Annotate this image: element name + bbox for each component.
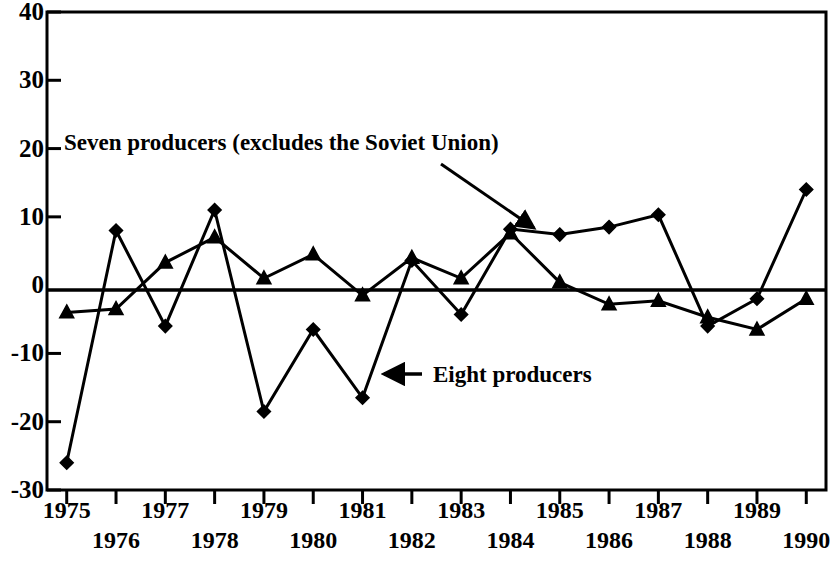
data-point-marker [405, 250, 419, 263]
x-tick-label: 1982 [372, 528, 452, 552]
series-line [67, 190, 807, 463]
y-tick-label: -20 [0, 409, 44, 434]
x-tick-label: 1976 [76, 528, 156, 552]
data-point-marker [553, 228, 566, 241]
y-tick-label: 30 [0, 67, 44, 92]
data-point-marker [257, 405, 270, 418]
data-point-marker [208, 204, 221, 217]
x-tick-label: 1983 [421, 498, 501, 522]
series-line [67, 233, 807, 329]
data-series-layer [60, 183, 814, 469]
x-tick-label: 1985 [520, 498, 600, 522]
x-tick-label: 1984 [470, 528, 550, 552]
data-point-marker [60, 456, 73, 469]
data-point-marker [652, 208, 665, 221]
y-tick-label: -10 [0, 340, 44, 365]
plot-frame [47, 12, 826, 490]
x-tick-label: 1990 [766, 528, 834, 552]
x-tick-label: 1978 [175, 528, 255, 552]
data-point-marker [800, 183, 813, 196]
y-tick-label: 20 [0, 136, 44, 161]
data-point-marker [750, 292, 763, 305]
data-point-marker [110, 224, 123, 237]
x-tick-label: 1988 [668, 528, 748, 552]
data-point-marker [603, 221, 616, 234]
x-tick-label: 1987 [618, 498, 698, 522]
y-tick-label: 10 [0, 204, 44, 229]
data-point-marker [159, 320, 172, 333]
x-tick-label: 1981 [323, 498, 403, 522]
x-tick-label: 1980 [273, 528, 353, 552]
seven-producers-arrow [441, 164, 534, 228]
x-tick-label: 1986 [569, 528, 649, 552]
x-tick-label: 1975 [27, 498, 107, 522]
y-tick-label: 0 [0, 272, 44, 297]
annotation-arrows [384, 164, 534, 374]
series-seven-producers [60, 183, 813, 469]
series-label-seven-producers: Seven producers (excludes the Soviet Uni… [64, 131, 499, 154]
series-label-eight-producers: Eight producers [433, 363, 592, 386]
data-point-marker [306, 247, 320, 260]
x-tick-label: 1989 [717, 498, 797, 522]
y-tick-label: 40 [0, 0, 44, 24]
x-tick-label: 1979 [224, 498, 304, 522]
plot-border-rect [47, 12, 826, 490]
data-point-marker [799, 291, 813, 304]
x-tick-label: 1977 [125, 498, 205, 522]
y-axis-ticks [47, 12, 61, 490]
series-eight-producers [60, 226, 814, 335]
